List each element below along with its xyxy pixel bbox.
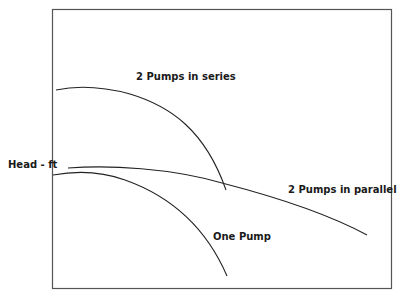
- label-series: 2 Pumps in series: [136, 71, 236, 83]
- label-parallel: 2 Pumps in parallel: [288, 184, 397, 196]
- label-one-pump: One Pump: [213, 231, 271, 243]
- y-axis-label: Head - ft: [8, 159, 57, 171]
- chart-frame: [53, 10, 392, 289]
- pump-curve-diagram: [0, 0, 398, 294]
